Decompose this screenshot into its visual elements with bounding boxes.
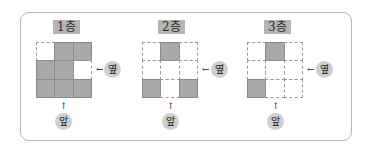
grid-cell — [247, 60, 267, 80]
grid-cell-filled — [73, 79, 93, 99]
grid-cell-filled — [73, 42, 93, 62]
grid-cell — [179, 42, 199, 62]
front-label: 앞 — [162, 113, 179, 130]
floor-2-label: 2층 — [158, 20, 185, 34]
grid-cell-filled — [36, 79, 56, 99]
grid-cell — [160, 60, 180, 80]
grid-cell — [247, 42, 267, 62]
arrow-up-icon: ↑ — [167, 101, 175, 111]
floor-3-label: 3층 — [264, 20, 291, 34]
grid-cell — [142, 42, 162, 62]
arrow-left-icon: ← — [307, 64, 315, 74]
floor-1-label: 1층 — [53, 20, 80, 34]
side-label: 옆 — [104, 61, 121, 78]
arrow-up-icon: ↑ — [272, 101, 280, 111]
grid-cell-filled — [160, 42, 180, 62]
grid-cell-filled — [142, 79, 162, 99]
grid-cell-filled — [54, 79, 74, 99]
grid-cell — [36, 42, 56, 62]
front-label: 앞 — [55, 113, 72, 130]
grid-cell — [142, 60, 162, 80]
grid-cell — [73, 60, 93, 80]
grid-cell-filled — [265, 42, 285, 62]
arrow-left-icon: ← — [202, 64, 210, 74]
grid-cell-filled — [36, 60, 56, 80]
floor-3-grid — [247, 42, 303, 98]
grid-cell-filled — [54, 60, 74, 80]
arrow-left-icon: ← — [96, 64, 104, 74]
grid-cell — [160, 79, 180, 99]
grid-cell-filled — [247, 79, 267, 99]
side-label: 옆 — [211, 61, 228, 78]
grid-cell — [179, 60, 199, 80]
grid-cell-filled — [179, 79, 199, 99]
floor-2-grid — [142, 42, 198, 98]
grid-cell — [284, 60, 304, 80]
grid-cell — [284, 79, 304, 99]
grid-cell — [265, 79, 285, 99]
grid-cell-filled — [54, 42, 74, 62]
arrow-up-icon: ↑ — [60, 101, 68, 111]
floor-1-grid — [36, 42, 92, 98]
grid-cell — [265, 60, 285, 80]
grid-cell — [284, 42, 304, 62]
front-label: 앞 — [267, 113, 284, 130]
side-label: 옆 — [316, 61, 333, 78]
